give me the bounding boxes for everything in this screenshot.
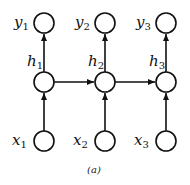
- rnn-diagram: y1 y2 y3 h1 h2 h3 x1 x2 x3 (a): [0, 0, 190, 185]
- edges-input-to-hidden: [44, 93, 166, 131]
- label-h2: h2: [88, 52, 104, 71]
- label-x1: x1: [12, 131, 27, 150]
- node-y3: [156, 13, 176, 33]
- node-h2: [95, 72, 115, 92]
- label-y3: y3: [135, 13, 151, 32]
- node-h3: [156, 72, 176, 92]
- label-h1: h1: [27, 52, 43, 71]
- node-y1: [34, 13, 54, 33]
- label-h3: h3: [149, 52, 165, 71]
- node-x3: [156, 131, 176, 151]
- node-x2: [95, 131, 115, 151]
- label-y2: y2: [74, 13, 90, 32]
- label-x3: x3: [134, 131, 149, 150]
- node-y2: [95, 13, 115, 33]
- figure-caption: (a): [87, 164, 101, 175]
- label-y1: y1: [13, 13, 29, 32]
- node-x1: [34, 131, 54, 151]
- node-h1: [34, 72, 54, 92]
- edges-hidden-to-output: [44, 34, 166, 72]
- label-x2: x2: [73, 131, 88, 150]
